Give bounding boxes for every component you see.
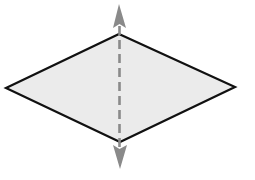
rhombus-symmetry-diagram <box>0 0 255 180</box>
arrow-down-icon <box>113 145 127 169</box>
arrow-up-icon <box>113 4 126 28</box>
